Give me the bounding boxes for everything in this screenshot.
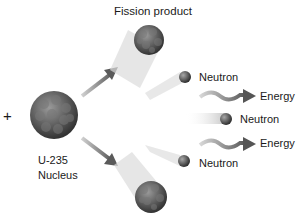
- neutron-top-icon: [145, 71, 191, 100]
- fission-product-label: Fission product: [114, 5, 192, 17]
- plus-sign: +: [3, 107, 12, 124]
- neutron-middle-icon: [185, 113, 232, 125]
- arrow-down-icon: [82, 138, 118, 166]
- neutron-label-bottom: Neutron: [199, 157, 238, 169]
- energy-label-bottom: Energy: [260, 137, 295, 149]
- energy-wave-bottom-icon: [200, 137, 256, 151]
- energy-label-top: Energy: [260, 90, 295, 102]
- u235-nucleus-icon: [30, 91, 78, 139]
- neutron-label-top: Neutron: [199, 71, 238, 83]
- fission-product-bottom-icon: [114, 152, 167, 213]
- fission-product-top-icon: [110, 25, 164, 88]
- nucleus-label-line1: U-235: [38, 154, 68, 166]
- nucleus-label-line2: Nucleus: [38, 169, 78, 181]
- neutron-label-middle: Neutron: [240, 113, 279, 125]
- neutron-bottom-icon: [145, 145, 190, 168]
- energy-wave-top-icon: [200, 89, 256, 103]
- fission-diagram: [0, 0, 301, 224]
